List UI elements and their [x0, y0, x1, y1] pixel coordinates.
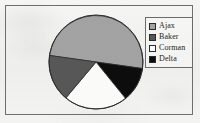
legend-label-ajax: Ajax: [159, 21, 175, 31]
legend-swatch-ajax: [149, 23, 156, 30]
legend-item-baker[interactable]: Baker: [149, 32, 190, 42]
legend-label-baker: Baker: [159, 32, 179, 42]
legend-label-corman: Corman: [159, 43, 185, 53]
legend-item-delta[interactable]: Delta: [149, 54, 190, 64]
pie-chart-screenshot: Ajax Baker Corman Delta: [0, 0, 200, 123]
legend-item-corman[interactable]: Corman: [149, 43, 190, 53]
legend-label-delta: Delta: [159, 54, 177, 64]
chart-legend: Ajax Baker Corman Delta: [145, 17, 193, 68]
legend-swatch-corman: [149, 45, 156, 52]
legend-swatch-baker: [149, 34, 156, 41]
legend-item-ajax[interactable]: Ajax: [149, 21, 190, 31]
legend-swatch-delta: [149, 56, 156, 63]
